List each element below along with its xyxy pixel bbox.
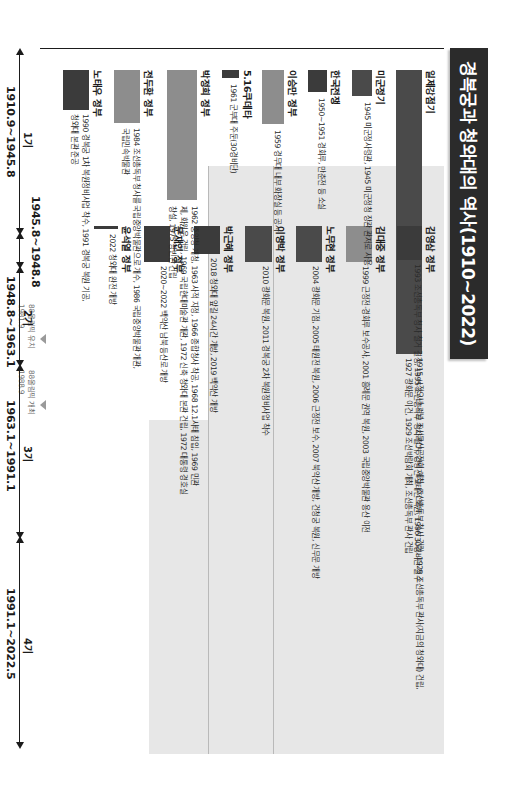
period-name-4: 4기 <box>21 638 36 654</box>
olympics-bid-marker-icon <box>40 334 46 344</box>
bar-yoon <box>94 226 118 229</box>
bar-label-rhee: 이승만 정부 <box>286 70 300 117</box>
period-line-2 <box>19 272 20 364</box>
period-name-1: 1기 <box>21 132 36 148</box>
period-name-2: 2기 <box>21 310 36 326</box>
bar-label-chun: 전두환 정부 <box>142 70 156 117</box>
bar-migunjeong <box>352 70 372 96</box>
time-baseline <box>40 48 444 49</box>
bar-label-kim-ys: 김영삼 정부 <box>424 226 438 273</box>
bar-rhee <box>262 70 284 124</box>
bar-roh-tw <box>63 70 89 110</box>
period-cap-start-interim <box>16 232 24 239</box>
bar-coup-516 <box>222 70 239 78</box>
period-cap-end-4 <box>16 742 24 749</box>
timeline-plot: 일제강점기 미군정기 한국전쟁 이승만 정부 5.16쿠데타 박정희 정부 전두… <box>40 48 444 754</box>
bar-lee-mb <box>245 226 272 262</box>
annotation-kim-dj: 1999 근정전·경회루 보수공사, 2001 흥례문 권역 복원, 2003 … <box>359 266 370 736</box>
period-line-3 <box>19 370 20 536</box>
annotation-yoon: 2022 청와대 완전 개방 <box>106 234 117 704</box>
bar-korean-war <box>308 70 327 92</box>
annotation-park-gh: 2018 청와대 앞길 24시간 개방, 2019 백악산 개방 <box>207 258 218 728</box>
bar-label-korean-war: 한국전쟁 <box>329 70 343 105</box>
annotation-coup-516: 1961 군부대 주둔(30경비단) <box>227 84 238 334</box>
annotation-kim-ys: 1993 조선총독부 청사 철거 결정, 1995 조선총독부 청사 철거, 강… <box>411 264 422 734</box>
bar-chun <box>114 70 140 123</box>
period-range-interim: 1945.8~1948.8 <box>29 196 42 288</box>
period-range-1: 1910.9~1945.8 <box>4 86 17 178</box>
bar-label-roh-tw: 노태우 정부 <box>91 70 105 117</box>
period-line-1 <box>19 54 20 232</box>
annotation-rhee: 1959 경무대 내부 화장실 등 공사 <box>271 130 282 380</box>
bar-park-ch <box>167 70 197 200</box>
annotation-chun: 1984 조선총독부 청사를 국립중앙박물관으로 개수, 1986 국립중앙박물… <box>119 128 141 528</box>
annotation-roh-mh: 2004 광화문 기점, 2005 태원전 복원, 2006 근정전 보수, 2… <box>309 266 320 736</box>
annotation-lee-mb: 2010 광화문 복원, 2011 경복궁 2차 복원정비사업 착수 <box>259 266 270 736</box>
bar-label-ilje: 일제강점기 <box>424 70 438 114</box>
period-cap-start-2 <box>16 266 24 273</box>
infographic-page: 경복궁과 청와대의 역사(1910~2022) 일제강점기 미군정기 한국전쟁 <box>0 0 506 788</box>
period-name-3: 3기 <box>21 446 36 462</box>
bar-label-coup-516: 5.16쿠데타 <box>241 70 255 118</box>
rotated-canvas: 경복궁과 청와대의 역사(1910~2022) 일제강점기 미군정기 한국전쟁 <box>0 0 506 788</box>
bar-label-migunjeong: 미군정기 <box>374 70 388 105</box>
annotation-moon: 2020~2022 백악산 남북 등산로 개방 <box>157 266 168 736</box>
period-range-4: 1991.1~2022.5 <box>4 588 17 680</box>
period-range-2: 1948.8~1963.1 <box>4 276 17 368</box>
bar-label-park-ch: 박정희 정부 <box>199 70 213 117</box>
page-title: 경복궁과 청와대의 역사(1910~2022) <box>450 48 488 359</box>
period-cap-start-4 <box>16 536 24 543</box>
period-cap-start-1 <box>16 48 24 55</box>
bar-label-kim-dj: 김대중 정부 <box>374 226 388 273</box>
olympics-host-marker-icon <box>40 400 46 410</box>
annotation-roh-tw: 1990 경복궁 1차 복원정비사업 착수, 1991 경복궁 복원 기공, 청… <box>68 114 90 514</box>
period-line-4 <box>19 542 20 746</box>
period-range-3: 1963.1~1991.1 <box>4 400 17 492</box>
bar-kim-ys <box>397 226 422 260</box>
period-cap-start-3 <box>16 364 24 371</box>
annotation-park-ch: 1962 중앙청 개청, 1963 사적 지정, 1966 종합청사 착공, 1… <box>167 206 199 626</box>
bar-label-roh-mh: 노무현 정부 <box>324 226 338 273</box>
